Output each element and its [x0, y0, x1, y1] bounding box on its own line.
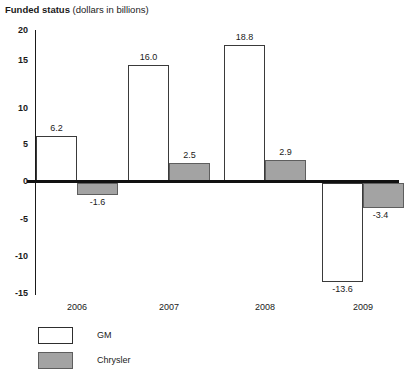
x-tick-label-2008: 2008	[244, 302, 286, 312]
bar-value-chrysler-2009: -3.4	[360, 210, 401, 220]
x-tick-label-2006: 2006	[56, 302, 98, 312]
y-tick-label-neg5: -5	[2, 214, 28, 224]
plot-area: 20 15 10 5 0 -5 -10 -15 6.2 -1.6 16.0 2.…	[0, 0, 399, 310]
y-tick-label-10: 10	[2, 103, 28, 113]
x-tick-label-2007: 2007	[148, 302, 190, 312]
bar-chrysler-2008[interactable]	[265, 160, 306, 181]
y-tick-label-0: 0	[2, 176, 28, 186]
legend-label-gm: GM	[97, 330, 112, 341]
y-tick-label-15: 15	[2, 55, 28, 65]
y-tick-label-neg10: -10	[2, 251, 28, 261]
bar-value-gm-2009: -13.6	[322, 284, 363, 294]
y-tick-label-5: 5	[2, 139, 28, 149]
x-tick-label-2009: 2009	[342, 302, 384, 312]
bar-value-gm-2007: 16.0	[128, 52, 169, 62]
legend-swatch-chrysler-icon	[38, 352, 73, 369]
bar-gm-2006[interactable]	[36, 136, 77, 181]
bar-chrysler-2007[interactable]	[169, 163, 210, 181]
bar-chrysler-2009[interactable]	[363, 183, 404, 208]
y-tick-label-20: 20	[2, 25, 28, 35]
zero-axis-line	[27, 180, 399, 183]
bar-value-gm-2006: 6.2	[36, 123, 77, 133]
bar-value-chrysler-2007: 2.5	[169, 150, 210, 160]
y-tick-label-neg15: -15	[2, 288, 28, 298]
legend-label-chrysler: Chrysler	[97, 355, 131, 366]
bar-value-chrysler-2008: 2.9	[265, 147, 306, 157]
bar-gm-2008[interactable]	[224, 45, 265, 181]
legend-swatch-gm-icon	[38, 327, 73, 344]
bar-gm-2007[interactable]	[128, 65, 169, 181]
bar-gm-2009[interactable]	[322, 183, 363, 282]
bar-value-gm-2008: 18.8	[224, 32, 265, 42]
bar-value-chrysler-2006: -1.6	[77, 197, 118, 207]
bar-chrysler-2006[interactable]	[77, 183, 118, 195]
